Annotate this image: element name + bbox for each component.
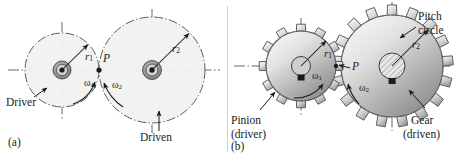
- driver-label: Driver: [6, 96, 36, 109]
- panel-a-friction-wheels: Driver Driven P r1 r2 ω1 ω2 (a): [0, 0, 228, 158]
- omega2-subscript: 2: [119, 83, 123, 91]
- gear-pitch-point-marker: [334, 64, 338, 68]
- gear-omega2-label: ω2: [359, 82, 369, 95]
- omega1-symbol: ω: [84, 77, 91, 88]
- gear-r1-subscript: 1: [328, 51, 332, 60]
- panel-a-caption: (a): [8, 136, 21, 149]
- pinion-label-line2: (driver): [231, 128, 266, 141]
- gear-r1-label: r1: [324, 47, 332, 61]
- gear-keyway: [389, 78, 396, 84]
- driven-label: Driven: [140, 131, 172, 144]
- pinion-leader: [260, 92, 275, 110]
- gear-label-line2: (driven): [403, 128, 440, 141]
- gear-omega1-label: ω1: [312, 70, 322, 83]
- gear-omega1-symbol: ω: [312, 70, 319, 81]
- gear-r2-subscript: 2: [416, 42, 420, 51]
- omega2-symbol: ω: [112, 79, 119, 90]
- r1-subscript: 1: [89, 54, 93, 63]
- omega2-label: ω2: [112, 79, 122, 92]
- pinion-keyway: [298, 75, 305, 81]
- r1-label: r1: [85, 50, 93, 64]
- pinion-label-line1: Pinion: [231, 114, 261, 127]
- gear-pitch-point-label: P: [352, 60, 359, 73]
- gear-omega2-symbol: ω: [359, 82, 366, 93]
- omega1-subscript: 1: [91, 81, 95, 89]
- gear-friction-wheel-figure: Driver Driven P r1 r2 ω1 ω2 (a): [0, 0, 457, 158]
- pitch-point-label: P: [103, 52, 110, 65]
- panel-b-gears: Pitch circle Pinion (driver) Gear (drive…: [228, 0, 457, 158]
- r2-label: r2: [172, 42, 180, 56]
- omega1-label: ω1: [84, 77, 94, 90]
- gear-r2-label: r2: [412, 38, 420, 52]
- panel-b-caption: (b): [231, 140, 244, 153]
- pitch-circle-label-line2: circle: [418, 24, 444, 37]
- gear-label-line1: Gear: [411, 114, 433, 127]
- gear-omega1-subscript: 1: [319, 74, 323, 82]
- pitch-circle-label-line1: Pitch: [418, 10, 442, 23]
- r2-subscript: 2: [176, 46, 180, 55]
- gear-omega2-subscript: 2: [366, 86, 370, 94]
- pitch-point-marker: [96, 67, 101, 72]
